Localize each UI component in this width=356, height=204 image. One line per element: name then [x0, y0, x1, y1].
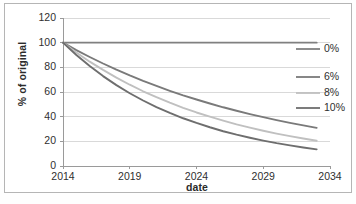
y-tick-100: 100: [22, 36, 56, 48]
x-tick-2019: 2019: [107, 170, 153, 182]
y-tick-20: 20: [22, 134, 56, 146]
x-tick-2029: 2029: [240, 170, 286, 182]
legend-label-0pct: 0%: [324, 42, 339, 54]
series-lines: [63, 43, 317, 150]
legend-label-8pct: 8%: [324, 86, 339, 98]
y-tick-40: 40: [22, 110, 56, 122]
legend-label-6pct: 6%: [324, 70, 339, 82]
x-tick-2034: 2034: [307, 170, 353, 182]
legend-swatches: [296, 49, 320, 108]
series-line-6pct: [63, 43, 317, 128]
y-tick-120: 120: [22, 11, 56, 23]
gridlines: [63, 18, 330, 166]
chart-figure: % of original date 120100806040200 20142…: [0, 0, 356, 204]
y-tick-80: 80: [22, 60, 56, 72]
y-tick-60: 60: [22, 85, 56, 97]
x-tick-2014: 2014: [40, 170, 86, 182]
x-tick-2024: 2024: [174, 170, 220, 182]
x-axis-title: date: [63, 181, 331, 193]
legend-label-10pct: 10%: [324, 101, 345, 113]
axis-lines: [60, 18, 330, 169]
figure-caption: [0, 196, 356, 204]
